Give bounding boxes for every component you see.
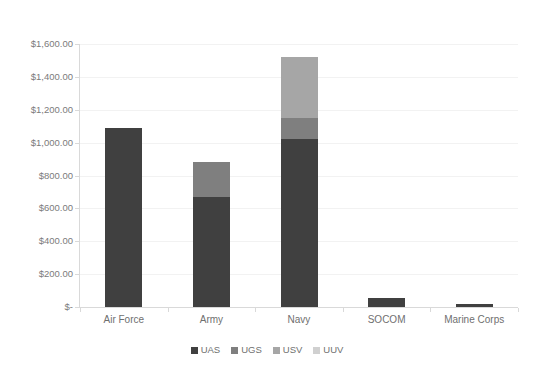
y-axis-tick-label: $1,400.00: [7, 72, 73, 82]
bar-segment-uas[interactable]: [193, 197, 230, 307]
bar-segment-uas[interactable]: [281, 139, 318, 307]
y-axis-tick: [75, 143, 79, 144]
bar-stack: [105, 128, 142, 307]
x-axis-label-navy: Navy: [255, 314, 343, 325]
x-axis-tick: [343, 308, 344, 312]
bar-segment-uas[interactable]: [456, 304, 493, 307]
bar-segment-ugs[interactable]: [193, 162, 230, 197]
legend-swatch-icon: [191, 347, 198, 354]
bar-segment-usv[interactable]: [281, 57, 318, 118]
y-axis-tick: [75, 110, 79, 111]
y-axis-labels: $1,600.00$1,400.00$1,200.00$1,000.00$800…: [5, 0, 73, 374]
bar-segment-uas[interactable]: [105, 128, 142, 307]
y-axis-tick: [75, 176, 79, 177]
legend-label: UGS: [241, 345, 262, 355]
bar-stack: [281, 57, 318, 307]
y-axis-tick: [75, 77, 79, 78]
legend-item-ugs[interactable]: UGS: [231, 345, 262, 355]
legend-swatch-icon: [231, 347, 238, 354]
legend-item-uas[interactable]: UAS: [191, 345, 221, 355]
y-axis-tick: [75, 208, 79, 209]
x-axis-tick: [80, 308, 81, 312]
legend-swatch-icon: [313, 347, 320, 354]
x-axis-label-marine-corps: Marine Corps: [430, 314, 518, 325]
y-axis-tick: [75, 44, 79, 45]
bar-stack: [193, 162, 230, 307]
bar-stack: [368, 298, 405, 307]
y-axis-tick-label: $200.00: [7, 269, 73, 279]
x-axis-label-air-force: Air Force: [80, 314, 168, 325]
legend-swatch-icon: [273, 347, 280, 354]
legend-label: UUV: [323, 345, 343, 355]
legend-item-uuv[interactable]: UUV: [313, 345, 343, 355]
bar-stack: [456, 304, 493, 307]
legend-label: USV: [283, 345, 303, 355]
x-axis-tick: [168, 308, 169, 312]
x-axis-label-army: Army: [168, 314, 256, 325]
y-axis-tick-label: $-: [7, 302, 73, 312]
bar-segment-uas[interactable]: [368, 298, 405, 307]
stacked-bar-chart: $1,600.00$1,400.00$1,200.00$1,000.00$800…: [0, 0, 534, 374]
legend-label: UAS: [201, 345, 221, 355]
y-axis-tick-label: $800.00: [7, 171, 73, 181]
x-axis-tick: [518, 308, 519, 312]
y-axis-tick: [75, 274, 79, 275]
y-axis-tick-label: $1,200.00: [7, 105, 73, 115]
chart-legend: UASUGSUSVUUV: [0, 345, 534, 355]
y-axis-tick-label: $1,600.00: [7, 39, 73, 49]
y-axis-tick: [75, 241, 79, 242]
y-axis-tick-label: $600.00: [7, 203, 73, 213]
legend-item-usv[interactable]: USV: [273, 345, 303, 355]
y-axis-tick: [75, 307, 79, 308]
x-axis-tick: [430, 308, 431, 312]
bar-segment-ugs[interactable]: [281, 118, 318, 139]
x-axis-tick: [255, 308, 256, 312]
x-axis-label-socom: SOCOM: [343, 314, 431, 325]
y-axis-tick-label: $1,000.00: [7, 138, 73, 148]
y-axis-tick-label: $400.00: [7, 236, 73, 246]
